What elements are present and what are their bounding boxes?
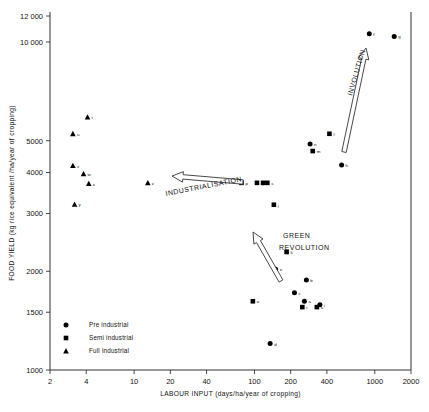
y-tick-label: 12 000 (20, 12, 43, 21)
data-point-label: f (373, 32, 375, 37)
data-point-label: a (308, 299, 311, 304)
data-point-circle (392, 34, 397, 39)
data-point-circle (292, 290, 297, 295)
data-point-square (265, 181, 270, 186)
data-point-label: y (79, 202, 82, 207)
data-point-label: p (245, 181, 248, 186)
y-tick-label: 3000 (26, 209, 43, 218)
data-point-triangle (81, 171, 87, 176)
data-point-square (327, 131, 332, 136)
data-point-triangle (72, 201, 78, 206)
annotation-green: GREEN (283, 232, 310, 239)
data-point-circle (308, 141, 313, 146)
x-tick-label: 10 (130, 377, 138, 386)
legend-label: Pre industrial (89, 321, 129, 328)
x-tick-label: 200 (284, 377, 297, 386)
x-tick-label: 40 (202, 377, 210, 386)
data-point-label: z (152, 181, 154, 186)
y-tick-label: 1000 (26, 366, 43, 375)
x-tick-label: 100 (248, 377, 261, 386)
legend-marker-triangle (63, 348, 69, 353)
data-point-label: x (93, 182, 96, 187)
x-tick-label: 20 (166, 377, 174, 386)
x-tick-label: 2 (48, 377, 52, 386)
data-point-label: d (274, 342, 277, 347)
x-tick-label: 4 (84, 377, 88, 386)
y-tick-label: 5000 (26, 137, 43, 146)
data-point-label: m (317, 149, 321, 154)
x-tick-label: 1000 (366, 377, 383, 386)
data-point-label: v (77, 164, 80, 169)
data-point-label: t (92, 115, 94, 120)
legend-marker-square (64, 336, 69, 341)
data-point-square (272, 202, 277, 207)
legend-marker-circle (64, 323, 69, 328)
data-point-label: w (88, 172, 92, 177)
data-point-label: o (257, 299, 260, 304)
y-tick-label: 10 000 (20, 38, 43, 47)
data-point-label: b (310, 278, 313, 283)
data-point-triangle (86, 181, 92, 186)
data-point-circle (304, 278, 309, 283)
x-axis-title: LABOUR INPUT (days/ha/year of cropping) (160, 390, 301, 398)
x-tick-label: 2000 (403, 377, 420, 386)
data-point-square (251, 299, 256, 304)
y-tick-label: 1500 (26, 308, 43, 317)
data-point-label: i (324, 303, 325, 308)
data-point-square (300, 305, 305, 310)
data-point-square (261, 181, 266, 186)
data-point-triangle (70, 131, 76, 136)
data-point-circle (302, 299, 307, 304)
green-revolution-arrow (253, 232, 283, 282)
data-point-square (315, 305, 320, 310)
data-point-label: h (346, 163, 349, 168)
y-axis-title: FOOD YIELD (kg rice equivalent /ha/year … (8, 105, 16, 281)
data-point-label: t (306, 305, 308, 310)
data-point-label: n (314, 142, 317, 147)
data-point-label: j (277, 203, 279, 208)
legend-label: Full industrial (89, 347, 129, 354)
data-point-label: c (298, 291, 301, 296)
annotation-revolution: REVOLUTION (279, 244, 330, 251)
data-point-label: e (280, 267, 283, 272)
data-point-square (310, 149, 315, 154)
x-tick-label: 400 (321, 377, 334, 386)
data-point-triangle (85, 114, 91, 119)
data-point-label: g (398, 34, 401, 39)
chart-canvas: 10001500200030004000500010 00012 0002410… (0, 0, 429, 412)
legend-label: Semi industrial (89, 334, 133, 341)
y-tick-label: 2000 (26, 267, 43, 276)
y-tick-label: 4000 (26, 168, 43, 177)
data-point-square (255, 181, 260, 186)
data-point-circle (367, 31, 372, 36)
data-point-label: l (333, 132, 334, 137)
scatter-plot: 10001500200030004000500010 00012 0002410… (0, 0, 429, 412)
data-point-circle (268, 341, 273, 346)
data-point-triangle (145, 180, 151, 185)
data-point-label: u (77, 132, 80, 137)
data-point-triangle (70, 163, 76, 168)
data-point-label: s (271, 181, 274, 186)
data-point-circle (339, 162, 344, 167)
